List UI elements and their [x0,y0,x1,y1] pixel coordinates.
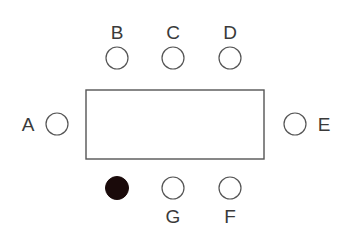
seat-label-f: F [224,206,236,227]
seat-e [284,113,306,135]
seat-label-c: C [166,22,180,43]
seat-g [162,177,184,199]
seat-a [46,113,68,135]
seat-label-e: E [318,114,331,135]
seat-label-d: D [223,22,237,43]
seat-c [162,47,184,69]
seating-diagram: A B C D E F G [0,0,342,238]
seat-f [219,177,241,199]
table-rectangle [86,90,264,159]
seat-label-a: A [22,114,35,135]
seat-d [219,47,241,69]
seat-label-b: B [111,22,124,43]
seat-label-g: G [166,206,181,227]
filled-seat [106,177,129,200]
seat-b [106,47,128,69]
